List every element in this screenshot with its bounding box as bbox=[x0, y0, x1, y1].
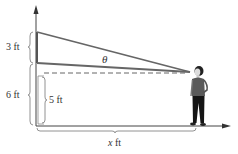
label-five-ft: 5 ft bbox=[49, 95, 63, 105]
x-ft-brace bbox=[37, 128, 196, 133]
diagram-canvas bbox=[0, 0, 238, 154]
label-x-unit: ft bbox=[112, 137, 121, 148]
six-ft-brace bbox=[28, 64, 33, 125]
ground-axis-arrow-icon bbox=[222, 124, 231, 129]
five-ft-brace bbox=[42, 77, 47, 123]
label-six-ft: 6 ft bbox=[6, 90, 20, 100]
sightline-bottom bbox=[37, 63, 190, 72]
label-three-ft: 3 ft bbox=[6, 42, 20, 52]
five-ft-bracket bbox=[38, 76, 44, 124]
sightline-top bbox=[37, 32, 190, 72]
three-ft-brace bbox=[28, 32, 33, 63]
label-x-ft: x ft bbox=[108, 138, 121, 148]
label-theta: θ bbox=[102, 54, 107, 65]
person-figure bbox=[190, 66, 207, 126]
vertical-axis-arrow-icon bbox=[34, 5, 39, 14]
